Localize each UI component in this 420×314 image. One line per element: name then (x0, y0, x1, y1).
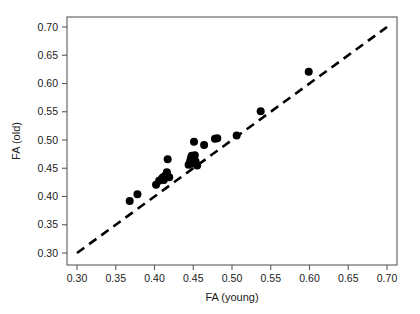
y-axis-tick-labels: 0.300.350.400.450.500.550.600.650.70 (38, 21, 59, 259)
x-axis-tick-labels: 0.300.350.400.450.500.550.600.650.70 (67, 272, 398, 284)
data-point (193, 161, 201, 169)
x-tick-label: 0.50 (222, 272, 243, 284)
x-tick-label: 0.30 (67, 272, 88, 284)
y-tick-label: 0.35 (38, 218, 59, 230)
y-tick-label: 0.50 (38, 134, 59, 146)
data-point (233, 131, 241, 139)
data-point (133, 190, 141, 198)
y-axis-title: FA (old) (10, 122, 22, 160)
y-tick-label: 0.70 (38, 21, 59, 33)
y-tick-label: 0.55 (38, 105, 59, 117)
x-tick-label: 0.40 (144, 272, 165, 284)
y-tick-label: 0.40 (38, 190, 59, 202)
x-tick-label: 0.45 (183, 272, 204, 284)
figure-background (0, 0, 420, 314)
y-tick-label: 0.60 (38, 77, 59, 89)
data-point (200, 141, 208, 149)
x-tick-label: 0.65 (338, 272, 359, 284)
scatter-plot-figure: 0.300.350.400.450.500.550.600.650.70 0.3… (0, 0, 420, 314)
x-tick-label: 0.60 (299, 272, 320, 284)
data-point (213, 134, 221, 142)
x-tick-label: 0.35 (106, 272, 127, 284)
y-tick-label: 0.45 (38, 162, 59, 174)
x-tick-label: 0.55 (261, 272, 282, 284)
data-point (165, 173, 173, 181)
data-point (164, 155, 172, 163)
y-tick-label: 0.30 (38, 247, 59, 259)
data-point (190, 138, 198, 146)
x-axis-title: FA (young) (205, 291, 258, 303)
data-point (305, 68, 313, 76)
x-tick-label: 0.70 (377, 272, 398, 284)
data-point (257, 107, 265, 115)
y-tick-label: 0.65 (38, 49, 59, 61)
data-point (126, 197, 134, 205)
